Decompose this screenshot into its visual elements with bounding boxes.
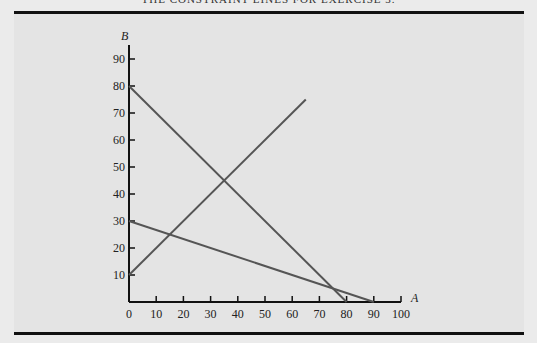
y-tick-label: 10 (113, 268, 125, 282)
y-tick-label: 40 (113, 187, 125, 201)
x-tick-label: 70 (313, 307, 325, 321)
line-2 (129, 221, 374, 302)
y-tick-label: 90 (113, 52, 125, 66)
y-tick-label: 60 (113, 133, 125, 147)
x-tick-label: 100 (392, 307, 410, 321)
x-tick-label: 50 (259, 307, 271, 321)
y-tick-label: 70 (113, 106, 125, 120)
y-tick-label: 80 (113, 79, 125, 93)
series-lines (129, 86, 374, 302)
x-tick-label: 80 (341, 307, 353, 321)
x-axis-label: A (410, 291, 419, 305)
x-tick-label: 0 (126, 307, 132, 321)
chart: 0102030405060708090100102030405060708090… (0, 0, 537, 343)
x-tick-label: 10 (150, 307, 162, 321)
y-tick-label: 50 (113, 160, 125, 174)
axes: 0102030405060708090100102030405060708090 (113, 45, 410, 321)
x-tick-label: 30 (205, 307, 217, 321)
line-3 (129, 100, 306, 276)
x-tick-label: 90 (368, 307, 380, 321)
y-tick-label: 20 (113, 241, 125, 255)
y-tick-label: 30 (113, 214, 125, 228)
x-tick-label: 20 (177, 307, 189, 321)
y-axis-label: B (121, 29, 129, 43)
x-tick-label: 40 (232, 307, 244, 321)
line-1 (129, 86, 347, 302)
x-tick-label: 60 (286, 307, 298, 321)
